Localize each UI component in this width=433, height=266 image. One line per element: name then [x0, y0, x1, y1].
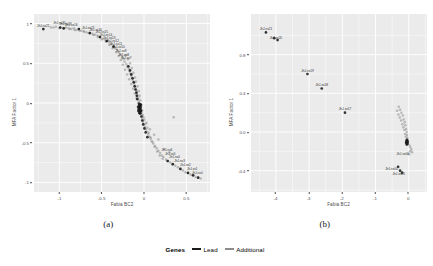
data-point: [197, 176, 200, 179]
plot-b: MFA Factor 1 -0.40.00.40.8 JhJ-ss21JhJ-s…: [217, 6, 433, 218]
legend-key-additional[interactable]: Additional: [225, 246, 265, 253]
data-point: [128, 78, 131, 81]
scatter-canvas-a: JhJ-ss21JhJ-ss20JhJ-ss19JhJ-ss18JhJ-ss17…: [34, 14, 210, 192]
data-point: [171, 163, 174, 166]
data-point: [140, 110, 143, 113]
data-point: [156, 150, 159, 153]
data-point: [398, 109, 401, 112]
panel-a: MFA Factor 1 -1-0.500.51 JhJ-ss21JhJ-ss2…: [0, 0, 217, 236]
legend-label-lead: Lead: [204, 246, 218, 253]
data-point: [149, 136, 152, 139]
x-tick-label: -3: [307, 196, 311, 201]
data-point: [137, 110, 140, 113]
data-point: [153, 145, 156, 148]
data-point: [177, 166, 180, 169]
data-point: [133, 81, 136, 84]
data-point: [399, 119, 402, 122]
panel-b: MFA Factor 1 -0.40.00.40.8 JhJ-ss21JhJ-s…: [217, 0, 433, 236]
data-point: [182, 169, 185, 172]
x-tick-label: 0.5: [183, 196, 189, 201]
data-point: [397, 106, 400, 109]
figure-root: MFA Factor 1 -1-0.500.51 JhJ-ss21JhJ-ss2…: [0, 0, 433, 266]
data-point: [134, 76, 137, 79]
x-tick-label: -1: [373, 196, 377, 201]
data-point: [146, 136, 149, 139]
data-point: [55, 25, 58, 28]
data-point: [130, 73, 133, 76]
data-point: [137, 106, 140, 109]
point-label: JhJ-ss20: [269, 36, 282, 40]
subcaption-a: (a): [0, 219, 217, 229]
x-tick-label: -0.5: [98, 196, 106, 201]
data-point: [147, 131, 150, 134]
x-tick-label: 0: [407, 196, 409, 201]
data-point: [50, 26, 53, 29]
data-point: [141, 119, 144, 122]
data-point: [187, 172, 190, 175]
data-point: [402, 118, 405, 121]
legend: Genes Lead Additional: [0, 240, 433, 258]
data-point: [157, 138, 160, 141]
data-point: [166, 160, 169, 163]
data-point: [397, 113, 400, 116]
x-tick-label: -4: [273, 196, 277, 201]
data-point: [401, 123, 404, 126]
data-point: [130, 67, 133, 70]
data-point: [92, 33, 95, 36]
data-point: [131, 77, 134, 80]
data-point: [89, 32, 92, 35]
point-label: JhJ-ss05: [392, 172, 405, 176]
data-point: [78, 28, 81, 31]
data-point: [135, 91, 138, 94]
data-point: [142, 123, 145, 126]
data-point: [169, 161, 172, 164]
data-point: [179, 168, 182, 171]
data-point: [139, 99, 142, 102]
point-label: JhJ-ss06: [396, 152, 409, 156]
y-tick-label: -0.4: [238, 168, 246, 173]
data-point: [398, 116, 401, 119]
data-point: [83, 30, 86, 33]
data-point: [159, 152, 162, 155]
scatter-canvas-b: JhJ-ss21JhJ-ss20JhJ-ss19JhJ-ss18JhJ-ss17…: [251, 14, 427, 192]
data-point: [153, 134, 156, 137]
y-tick-label: -0.5: [21, 140, 29, 145]
data-point: [145, 122, 148, 125]
y-tick-label: 1: [27, 21, 29, 26]
point-label: JhJ-ss19: [301, 69, 314, 73]
point-label: JhJ-ss0: [192, 171, 203, 175]
y-axis-ticks-a: -1-0.500.51: [16, 14, 32, 192]
data-point: [401, 114, 404, 117]
y-tick-label: 0.5: [23, 61, 29, 66]
data-point: [155, 147, 158, 150]
point-label: JhJ-ss04: [385, 167, 398, 171]
y-tick-label: 0.0: [239, 130, 245, 135]
data-point: [184, 171, 187, 174]
y-axis-ticks-b: -0.40.00.40.8: [233, 14, 249, 192]
data-point: [42, 28, 45, 31]
data-point: [52, 26, 55, 29]
data-point: [146, 126, 149, 129]
data-point: [264, 31, 267, 34]
data-point: [129, 62, 132, 65]
y-tick-label: 0: [27, 101, 29, 106]
data-point: [126, 73, 129, 76]
point-label: JhJ-ss21: [259, 27, 272, 31]
data-point: [140, 115, 143, 118]
data-point: [132, 87, 135, 90]
data-point: [194, 176, 197, 179]
point-label: JhJ-ss18: [315, 83, 328, 87]
point-label: JhJ-ss17: [338, 107, 351, 111]
legend-key-lead[interactable]: Lead: [192, 246, 218, 253]
data-point: [395, 109, 398, 112]
x-tick-label: -2: [340, 196, 344, 201]
data-point: [143, 127, 146, 130]
data-point: [403, 129, 406, 132]
x-tick-label: 0: [143, 196, 145, 201]
data-point: [135, 95, 138, 98]
data-point: [138, 95, 141, 98]
data-point: [144, 131, 147, 134]
y-tick-label: -1: [25, 180, 29, 185]
legend-swatch-additional: [225, 248, 234, 250]
data-point: [139, 112, 142, 115]
